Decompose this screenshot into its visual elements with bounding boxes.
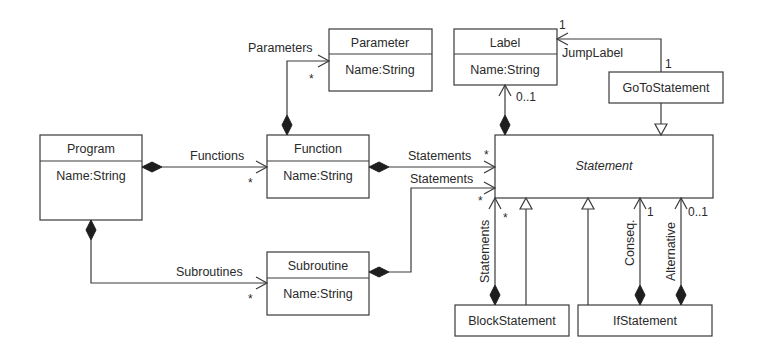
class-program-name: Program: [67, 142, 115, 156]
multiplicity-conseq: 1: [647, 205, 654, 219]
class-label-name: Label: [490, 36, 521, 50]
class-gotostatement-name: GoToStatement: [623, 81, 710, 95]
class-label: Label Name:String: [454, 29, 557, 85]
multiplicity-label: 0..1: [516, 90, 536, 104]
role-function-statements: Statements: [408, 149, 471, 163]
association-conseq: Conseq. 1: [623, 198, 654, 305]
class-function-name: Function: [294, 142, 342, 156]
composition-diamond-icon: [86, 220, 96, 240]
composition-diamond-icon: [500, 115, 510, 135]
class-label-attribute: Name:String: [470, 63, 540, 77]
class-parameter-attribute: Name:String: [345, 63, 415, 77]
composition-diamond-icon: [369, 267, 389, 277]
class-ifstatement-name: IfStatement: [613, 314, 677, 328]
association-jumplabel: JumpLabel 1 1: [557, 18, 672, 72]
multiplicity-block-statements: *: [503, 211, 508, 225]
composition-diamond-icon: [282, 115, 292, 135]
class-ifstatement: IfStatement: [578, 305, 712, 336]
role-conseq: Conseq.: [623, 219, 637, 266]
association-functions: Functions *: [142, 149, 267, 190]
generalization-gotostatement: [655, 103, 667, 135]
class-blockstatement: BlockStatement: [455, 305, 569, 336]
association-alternative: Alternative 0..1: [664, 198, 708, 305]
composition-diamond-icon: [676, 285, 686, 305]
generalization-blockstatement: [520, 198, 532, 305]
association-block-statements: Statements *: [478, 198, 508, 305]
class-subroutine-attribute: Name:String: [283, 287, 353, 301]
multiplicity-function-statements: *: [484, 148, 489, 162]
uml-class-diagram: Program Name:String Function Name:String…: [0, 0, 757, 357]
generalization-triangle-icon: [655, 124, 667, 135]
class-subroutine-name: Subroutine: [288, 259, 349, 273]
multiplicity-alternative: 0..1: [688, 205, 708, 219]
generalization-triangle-icon: [520, 198, 532, 209]
role-subroutines: Subroutines: [176, 265, 243, 279]
multiplicity-jumplabel-target: 1: [559, 18, 566, 32]
class-subroutine: Subroutine Name:String: [267, 252, 369, 315]
role-parameters: Parameters: [248, 41, 313, 55]
composition-diamond-icon: [490, 285, 500, 305]
generalization-ifstatement: [582, 198, 594, 305]
class-blockstatement-name: BlockStatement: [468, 314, 556, 328]
role-jumplabel: JumpLabel: [562, 46, 623, 60]
class-program-attribute: Name:String: [56, 169, 126, 183]
multiplicity-functions: *: [248, 176, 253, 190]
class-function: Function Name:String: [267, 135, 369, 198]
association-subroutines: Subroutines *: [86, 220, 267, 306]
composition-diamond-icon: [142, 162, 162, 172]
class-function-attribute: Name:String: [283, 169, 353, 183]
composition-diamond-icon: [369, 162, 389, 172]
association-subroutine-statements: Statements *: [369, 172, 495, 277]
class-parameter: Parameter Name:String: [329, 29, 432, 91]
association-label: 0..1: [499, 85, 536, 135]
class-parameter-name: Parameter: [351, 36, 409, 50]
class-statement: Statement: [495, 135, 713, 198]
multiplicity-subroutines: *: [248, 292, 253, 306]
multiplicity-subroutine-statements: *: [478, 194, 483, 208]
multiplicity-jumplabel-source: 1: [665, 57, 672, 71]
role-subroutine-statements: Statements: [410, 172, 473, 186]
role-alternative: Alternative: [664, 222, 678, 281]
role-functions: Functions: [190, 149, 244, 163]
composition-diamond-icon: [635, 285, 645, 305]
generalization-triangle-icon: [582, 198, 594, 209]
association-function-statements: Statements *: [369, 148, 495, 173]
multiplicity-parameters: *: [309, 72, 314, 86]
role-block-statements: Statements: [478, 220, 492, 283]
class-statement-name: Statement: [576, 159, 634, 173]
association-parameters: Parameters *: [248, 41, 329, 135]
class-gotostatement: GoToStatement: [609, 72, 723, 103]
class-program: Program Name:String: [40, 135, 142, 220]
